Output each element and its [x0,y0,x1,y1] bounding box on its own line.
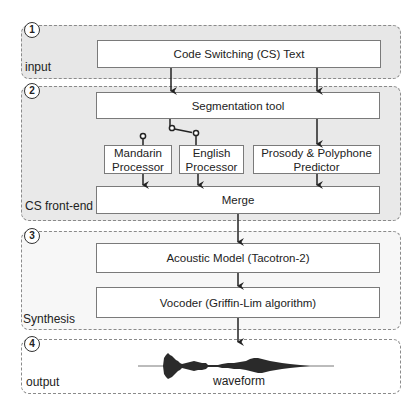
vocoder-box: Vocoder (Griffin-Lim algorithm) [96,287,380,318]
step-2-badge: 2 [24,83,40,99]
panel-label-input: input [25,60,51,74]
cs-text-box: Code Switching (CS) Text [97,40,381,68]
waveform-label: waveform [213,374,265,388]
english-processor-label: English Processor [182,146,241,174]
acoustic-model-box: Acoustic Model (Tacotron-2) [96,243,380,273]
step-3-badge: 3 [24,228,40,244]
merge-box: Merge [96,186,380,214]
panel-output [21,339,401,394]
mandarin-processor-box: Mandarin Processor [104,145,172,174]
vocoder-label: Vocoder (Griffin-Lim algorithm) [160,296,316,310]
segmentation-tool-box: Segmentation tool [96,92,380,119]
step-1-badge: 1 [24,22,40,38]
segmentation-tool-label: Segmentation tool [192,99,285,113]
step-4-badge: 4 [24,336,40,352]
merge-label: Merge [222,193,255,207]
panel-label-cs-frontend: CS front-end [25,199,93,213]
acoustic-model-label: Acoustic Model (Tacotron-2) [166,251,309,265]
prosody-polyphone-label: Prosody & Polyphone Predictor [260,146,373,174]
mandarin-processor-label: Mandarin Processor [107,146,169,174]
prosody-polyphone-box: Prosody & Polyphone Predictor [253,145,380,174]
panel-label-synthesis: Synthesis [23,312,75,326]
cs-text-label: Code Switching (CS) Text [174,47,305,61]
panel-label-output: output [26,375,59,389]
english-processor-box: English Processor [179,145,244,174]
